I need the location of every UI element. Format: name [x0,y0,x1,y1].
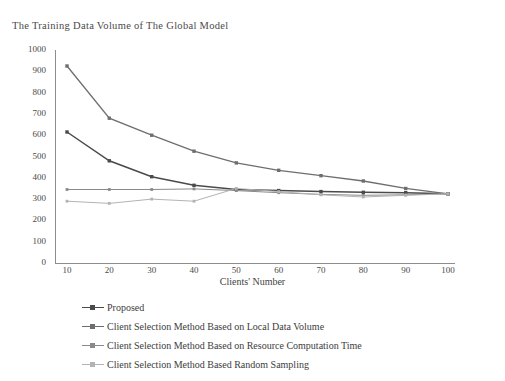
series-line [67,132,448,194]
chart-figure: The Training Data Volume of The Global M… [0,0,505,381]
x-tick-label: 90 [393,265,419,275]
data-point-marker [150,175,153,178]
data-point-marker [235,189,238,192]
y-tick-label: 0 [14,257,46,267]
data-point-marker [319,190,322,193]
data-point-marker [235,188,238,191]
x-tick-label: 30 [139,265,165,275]
data-point-marker [108,202,111,205]
data-point-marker [66,188,69,191]
series-line [67,189,448,195]
data-point-marker [277,191,280,194]
data-point-marker [235,187,238,190]
y-tick-label: 500 [14,151,46,161]
series-line [67,66,448,194]
y-tick-label: 700 [14,108,46,118]
data-point-marker [362,196,365,199]
series-group [65,64,449,195]
chart-title: The Training Data Volume of The Global M… [12,20,228,31]
x-axis-line [55,263,455,264]
data-point-marker [192,150,195,153]
data-point-marker [193,200,196,203]
data-point-marker [66,200,69,203]
y-tick-label: 400 [14,172,46,182]
legend-item[interactable]: Client Selection Method Based Random Sam… [82,355,422,374]
data-point-marker [404,194,407,197]
x-tick-label: 20 [96,265,122,275]
y-tick-label: 800 [14,87,46,97]
data-point-marker [108,188,111,191]
x-tick-label: 40 [181,265,207,275]
legend-item-label: Client Selection Method Based on Resourc… [107,340,362,351]
x-tick-label: 50 [223,265,249,275]
data-point-marker [404,187,407,190]
data-point-marker [362,179,365,182]
legend-marker-icon [82,341,104,351]
y-tick-label: 600 [14,129,46,139]
legend-item[interactable]: Client Selection Method Based on Local D… [82,317,422,336]
y-tick-label: 300 [14,193,46,203]
legend-marker-icon [82,303,104,313]
data-point-marker [65,64,68,67]
data-point-marker [362,191,365,194]
data-point-marker [320,193,323,196]
data-point-marker [108,117,111,120]
data-point-marker [277,190,280,193]
data-point-marker [319,174,322,177]
y-tick-label: 1000 [14,44,46,54]
data-point-marker [193,188,196,191]
legend-marker-icon [82,322,104,332]
series-group [65,130,449,195]
data-point-marker [192,184,195,187]
data-point-marker [404,193,407,196]
data-point-marker [320,193,323,196]
legend-marker-icon [82,360,104,370]
legend-item[interactable]: Client Selection Method Based on Resourc… [82,336,422,355]
y-axis-line [55,50,56,263]
y-tick-label: 900 [14,65,46,75]
y-tick-label: 200 [14,214,46,224]
series-line [67,188,448,203]
x-tick-label: 60 [266,265,292,275]
data-point-marker [150,188,153,191]
chart-legend: ProposedClient Selection Method Based on… [82,298,422,374]
data-point-marker [362,194,365,197]
data-point-marker [446,192,449,195]
data-point-marker [108,159,111,162]
data-point-marker [150,134,153,137]
data-point-marker [277,169,280,172]
data-point-marker [150,198,153,201]
legend-item-label: Client Selection Method Based Random Sam… [107,359,309,370]
x-axis-label: Clients' Number [0,276,505,287]
legend-item[interactable]: Proposed [82,298,422,317]
series-group [66,187,450,205]
x-tick-label: 10 [54,265,80,275]
data-point-marker [65,130,68,133]
data-point-marker [447,192,450,195]
data-point-marker [235,161,238,164]
series-group [66,188,450,197]
x-tick-label: 80 [350,265,376,275]
legend-item-label: Client Selection Method Based on Local D… [107,321,324,332]
data-point-marker [447,192,450,195]
x-tick-label: 70 [308,265,334,275]
x-tick-label: 100 [435,265,461,275]
data-point-marker [404,191,407,194]
data-point-marker [446,192,449,195]
data-point-marker [277,189,280,192]
legend-item-label: Proposed [107,302,144,313]
y-tick-label: 100 [14,236,46,246]
